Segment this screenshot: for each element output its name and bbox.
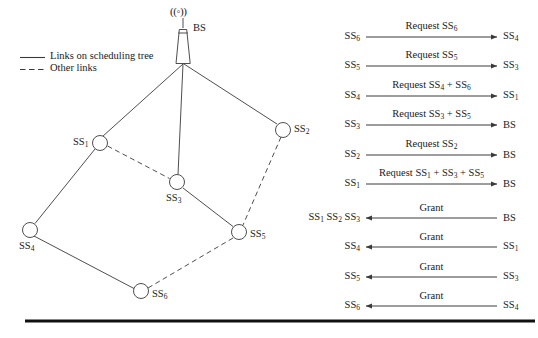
seq-token-main: SS: [345, 177, 357, 188]
seq-token-main: SS: [503, 240, 515, 251]
seq-row-1-message: Request SS6: [406, 21, 458, 32]
seq-token-main: Grant: [420, 202, 444, 213]
seq-row-1-right-endpoint: SS4: [503, 31, 518, 42]
node-label-ss3-sub: 3: [178, 196, 182, 205]
node-label-ss6: SS6: [152, 289, 167, 300]
seq-token-sub: 6: [454, 24, 458, 33]
node-label-ss5-main: SS: [250, 228, 262, 239]
seq-token-sub: 6: [356, 303, 360, 312]
seq-token-main: + SS: [457, 167, 480, 178]
seq-row-2-message: Request SS5: [406, 50, 458, 61]
bs-tower-body: [176, 30, 190, 64]
seq-token-main: Grant: [420, 261, 444, 272]
seq-token-main: Request SS: [379, 167, 427, 178]
seq-row-10-right-endpoint: SS4: [503, 300, 518, 311]
seq-token-main: + SS: [444, 108, 467, 119]
antenna-signal-icon: ((◦)): [170, 6, 187, 17]
seq-row-4-right-endpoint: BS: [503, 120, 516, 131]
seq-token-main: Grant: [420, 290, 444, 301]
seq-row-4-left-endpoint: SS3: [345, 119, 360, 130]
node-circle-ss6[interactable]: [134, 284, 149, 299]
seq-token-sub: 5: [467, 112, 471, 121]
seq-token-main: SS: [345, 270, 357, 281]
seq-token-main: SS: [503, 299, 515, 310]
network-edges: [34, 64, 281, 289]
seq-row-8-message: Grant: [420, 232, 444, 243]
seq-token-main: BS: [503, 212, 516, 223]
seq-token-sub: 6: [356, 34, 360, 43]
node-circle-ss5[interactable]: [232, 225, 247, 240]
seq-row-8-left-endpoint: SS4: [345, 241, 360, 252]
seq-row-7-right-endpoint: BS: [503, 213, 516, 224]
seq-token-main: SS: [503, 30, 515, 41]
seq-token-main: BS: [503, 149, 516, 160]
seq-token-main: SS: [345, 118, 357, 129]
seq-row-6-right-endpoint: BS: [503, 179, 516, 190]
seq-token-main: Request SS: [406, 20, 454, 31]
seq-row-3-message: Request SS4 + SS6: [392, 80, 471, 91]
node-label-ss1-sub: 1: [85, 140, 89, 149]
seq-row-9-left-endpoint: SS5: [345, 271, 360, 282]
legend-item-other-links-label: Other links: [50, 63, 97, 74]
node-label-ss5-sub: 5: [262, 232, 266, 241]
seq-token-main: SS: [345, 240, 357, 251]
seq-token-main: Request SS: [406, 49, 454, 60]
seq-token-main: SS: [345, 89, 357, 100]
seq-token-sub: 1: [320, 215, 324, 224]
seq-token-sub: 5: [356, 63, 360, 72]
seq-token-sub: 1: [515, 93, 519, 102]
node-circle-ss3[interactable]: [170, 175, 185, 190]
seq-token-sub: 5: [454, 53, 458, 62]
seq-token-sub: 3: [515, 274, 519, 283]
seq-token-main: SS: [345, 148, 357, 159]
seq-row-6-message: Request SS1 + SS3 + SS5: [379, 168, 484, 179]
edge-ss5-ss6: [148, 238, 233, 288]
seq-token-sub: 3: [356, 122, 360, 131]
node-label-ss2-main: SS: [294, 123, 306, 134]
seq-token-main: Request SS: [392, 79, 440, 90]
seq-row-10-left-endpoint: SS6: [345, 300, 360, 311]
seq-token-main: + SS: [444, 79, 467, 90]
seq-token-main: + SS: [431, 167, 454, 178]
node-label-ss3: SS3: [166, 193, 181, 204]
seq-token-main: SS: [327, 211, 339, 222]
seq-row-3-left-endpoint: SS4: [345, 90, 360, 101]
seq-token-sub: 5: [356, 274, 360, 283]
seq-token-main: SS: [503, 59, 515, 70]
seq-row-7-left-endpoint: SS1 SS2 SS3: [308, 212, 360, 223]
node-circle-ss2[interactable]: [276, 123, 291, 138]
edge-bs-ss3: [178, 64, 183, 175]
node-label-ss1-main: SS: [73, 136, 85, 147]
seq-token-sub: 4: [356, 244, 360, 253]
seq-token-main: BS: [503, 119, 516, 130]
seq-row-10-message: Grant: [420, 291, 444, 302]
seq-token-sub: 2: [338, 215, 342, 224]
seq-row-7-message: Grant: [420, 203, 444, 214]
seq-token-sub: 5: [480, 171, 484, 180]
seq-token-sub: 1: [356, 181, 360, 190]
edge-ss1-ss4: [35, 149, 95, 224]
seq-token-sub: 3: [356, 215, 360, 224]
edge-ss2-ss5: [243, 137, 281, 225]
node-circle-ss4[interactable]: [23, 223, 38, 238]
base-station-label: BS: [193, 23, 206, 34]
seq-row-6-left-endpoint: SS1: [345, 178, 360, 189]
seq-token-sub: 3: [515, 63, 519, 72]
seq-token-sub: 2: [356, 152, 360, 161]
edge-ss3-ss5: [183, 188, 233, 227]
legend-item-scheduling-tree-label: Links on scheduling tree: [50, 51, 154, 62]
edge-ss1-ss3: [108, 146, 170, 179]
seq-token-sub: 1: [515, 244, 519, 253]
node-circle-ss1[interactable]: [93, 136, 108, 151]
seq-row-5-message: Request SS2: [406, 139, 458, 150]
node-label-ss4-main: SS: [19, 240, 31, 251]
seq-row-9-message: Grant: [420, 262, 444, 273]
seq-row-1-left-endpoint: SS6: [345, 31, 360, 42]
node-label-ss3-main: SS: [166, 192, 178, 203]
node-label-ss1: SS1: [73, 137, 88, 148]
legend-sample-lines: [20, 58, 45, 70]
base-station-tower-icon[interactable]: [176, 18, 190, 64]
seq-token-sub: 6: [467, 83, 471, 92]
seq-token-sub: 4: [515, 303, 519, 312]
seq-token-main: Request SS: [406, 138, 454, 149]
